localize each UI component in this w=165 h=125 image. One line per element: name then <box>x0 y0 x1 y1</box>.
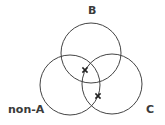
label-non-a: non-A <box>8 104 44 115</box>
venn-diagram: B non-A C <box>0 0 165 125</box>
label-c: C <box>146 104 154 115</box>
label-b: B <box>88 5 96 16</box>
circle-c <box>82 54 142 114</box>
circle-b <box>61 23 121 83</box>
